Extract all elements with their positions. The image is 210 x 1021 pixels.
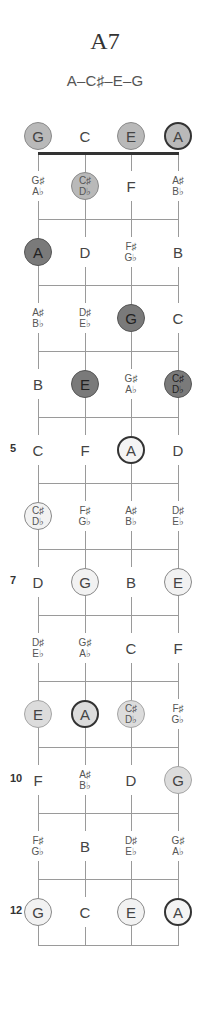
note-label: F: [23, 765, 53, 795]
note-label: G♯A♭: [116, 369, 146, 399]
note-label: F♯G♭: [23, 831, 53, 861]
note-marker: G: [164, 766, 192, 794]
sharp-name: A♯: [172, 175, 184, 186]
flat-name: A♭: [32, 186, 45, 197]
note-name: D: [173, 442, 184, 459]
sharp-name: G♯: [172, 835, 185, 846]
note-marker: E: [164, 568, 192, 596]
flat-name: B♭: [172, 186, 184, 197]
note-marker: A: [24, 238, 52, 266]
sharp-name: D♯: [79, 307, 91, 318]
note-label: G♯A♭: [23, 171, 53, 201]
flat-name: B♭: [125, 516, 137, 527]
note-label: D♯E♭: [23, 633, 53, 663]
sharp-name: D♯: [172, 505, 184, 516]
note-label: B: [116, 567, 146, 597]
note-marker: A: [164, 898, 192, 926]
sharp-name: F♯: [79, 505, 92, 516]
note-label: F: [116, 171, 146, 201]
sharp-name: G♯: [32, 175, 45, 186]
sharp-name: D♯: [32, 637, 44, 648]
note-name: E: [80, 376, 90, 393]
note-name: F: [80, 442, 89, 459]
fret-line-12: [38, 945, 179, 946]
note-name: B: [173, 244, 183, 261]
fret-line-2: [38, 285, 179, 286]
note-name: B: [80, 838, 90, 855]
flat-name: E♭: [32, 648, 44, 659]
flat-name: G♭: [32, 846, 45, 857]
sharp-name: C♯: [32, 505, 44, 516]
sharp-name: A♯: [125, 505, 137, 516]
sharp-name: F♯: [32, 835, 45, 846]
sharp-name: A♯: [79, 769, 91, 780]
note-name: A: [173, 128, 183, 145]
fret-line-6: [38, 549, 179, 550]
sharp-name: C♯: [79, 175, 91, 186]
flat-name: G♭: [125, 252, 138, 263]
note-label: C: [116, 633, 146, 663]
flat-name: D♭: [32, 516, 44, 527]
sharp-name: F♯: [172, 703, 185, 714]
fret-line-4: [38, 417, 179, 418]
note-label: F♯G♭: [70, 501, 100, 531]
flat-name: A♭: [79, 648, 92, 659]
note-label: C: [70, 897, 100, 927]
sharp-name: D♯: [125, 835, 137, 846]
note-name: C: [173, 310, 184, 327]
note-label: B: [163, 237, 193, 267]
note-marker: A: [117, 436, 145, 464]
note-name: A: [126, 442, 136, 459]
fret-line-10: [38, 813, 179, 814]
flat-name: G♭: [172, 714, 185, 725]
note-name: E: [126, 128, 136, 145]
note-label: D: [70, 237, 100, 267]
note-name: A: [80, 706, 90, 723]
flat-name: A♭: [172, 846, 185, 857]
note-name: D: [80, 244, 91, 261]
note-name: G: [32, 904, 44, 921]
note-name: A: [33, 244, 43, 261]
note-name: G: [125, 310, 137, 327]
note-marker: G: [71, 568, 99, 596]
note-marker: A: [71, 700, 99, 728]
flat-name: D♭: [79, 186, 91, 197]
nut: [38, 152, 179, 155]
note-marker: G: [117, 304, 145, 332]
note-label: A♯B♭: [116, 501, 146, 531]
note-name: F: [33, 772, 42, 789]
note-marker: E: [117, 122, 145, 150]
flat-name: D♭: [172, 384, 184, 395]
flat-name: E♭: [172, 516, 184, 527]
note-name: D: [33, 574, 44, 591]
note-name: C: [33, 442, 44, 459]
note-name: A: [173, 904, 183, 921]
note-label: C: [163, 303, 193, 333]
note-label: F♯G♭: [163, 699, 193, 729]
note-name: F: [173, 640, 182, 657]
note-label: A♯B♭: [70, 765, 100, 795]
note-label: D: [163, 435, 193, 465]
flat-name: B♭: [79, 780, 91, 791]
note-marker: G: [24, 122, 52, 150]
note-label: F: [163, 633, 193, 663]
note-name: F: [126, 178, 135, 195]
fret-line-1: [38, 219, 179, 220]
note-name: C: [126, 640, 137, 657]
note-name: B: [33, 376, 43, 393]
note-marker: E: [117, 898, 145, 926]
note-label: A♯B♭: [163, 171, 193, 201]
note-label: C: [70, 121, 100, 151]
fret-line-8: [38, 681, 179, 682]
note-label: B: [70, 831, 100, 861]
fret-line-7: [38, 615, 179, 616]
note-label: D♯E♭: [163, 501, 193, 531]
note-name: E: [126, 904, 136, 921]
note-name: G: [32, 128, 44, 145]
note-label: F♯G♭: [116, 237, 146, 267]
note-label: D♯E♭: [70, 303, 100, 333]
sharp-name: C♯: [125, 703, 137, 714]
flat-name: G♭: [79, 516, 92, 527]
note-name: G: [172, 772, 184, 789]
note-name: B: [126, 574, 136, 591]
